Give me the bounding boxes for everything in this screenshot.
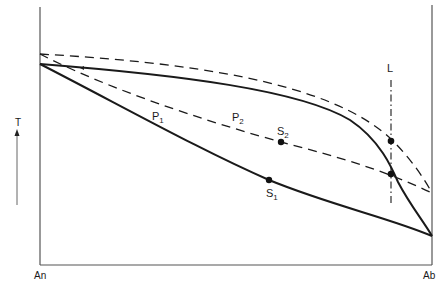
label-l: L: [387, 62, 393, 74]
solid-liquidus-curve: [40, 64, 432, 236]
x-label-ab: Ab: [423, 270, 436, 281]
dashed-solidus-curve: [40, 54, 432, 193]
s1-point: [266, 177, 272, 183]
label-s2: S2: [277, 125, 289, 140]
t-arrow-up-icon: [15, 129, 20, 136]
s2-point: [278, 139, 284, 145]
label-s1: S1: [266, 187, 278, 202]
liquidus-solid-point: [388, 171, 395, 178]
liquidus-dashed-point: [388, 138, 395, 145]
y-axis-label: T: [15, 117, 21, 128]
dashed-liquidus-curve: [40, 54, 432, 193]
solid-solidus-curve: [40, 64, 432, 236]
label-p2: P2: [232, 111, 244, 126]
phase-diagram: P1 P2 S2 S1 L T An Ab: [0, 0, 446, 293]
x-label-an: An: [34, 270, 46, 281]
